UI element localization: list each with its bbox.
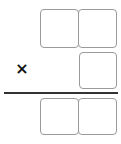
multiplicand-ones-box[interactable] [78, 9, 117, 48]
multiply-operator: × [15, 61, 29, 77]
product-ones-box[interactable] [78, 98, 117, 135]
product-tens-box[interactable] [40, 98, 79, 135]
multiplicand-tens-box[interactable] [40, 9, 79, 48]
answer-divider-line [4, 92, 118, 94]
multiplier-ones-box[interactable] [79, 52, 117, 89]
